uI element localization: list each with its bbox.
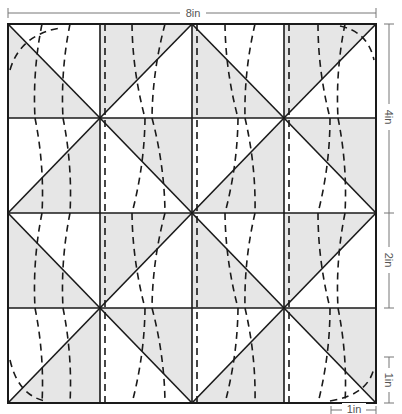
quilt-diagram: 8in 4in 2in 1in 1in	[0, 0, 402, 414]
dimension-label-right-lower: 1in	[383, 373, 395, 388]
dimension-label-bottom: 1in	[347, 403, 362, 414]
dimension-label-top: 8in	[186, 7, 201, 19]
dimension-label-right-upper: 4in	[383, 110, 395, 125]
dimension-label-right-middle: 2in	[383, 253, 395, 268]
